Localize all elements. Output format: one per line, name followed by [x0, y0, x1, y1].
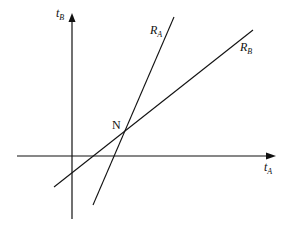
line-r-a [93, 17, 174, 205]
intersection-label: N [112, 118, 121, 132]
line-r-b-label: RB [239, 40, 252, 56]
diagram-svg: tB tA RA RB N [0, 0, 289, 227]
line-r-b [54, 30, 253, 187]
horizontal-axis-label: tA [264, 160, 272, 176]
vertical-axis-arrow-icon [69, 13, 76, 22]
horizontal-axis-arrow-icon [266, 153, 276, 160]
line-r-a-label: RA [149, 23, 162, 39]
reaction-curve-diagram: tB tA RA RB N [0, 0, 289, 227]
vertical-axis-label: tB [56, 6, 64, 22]
